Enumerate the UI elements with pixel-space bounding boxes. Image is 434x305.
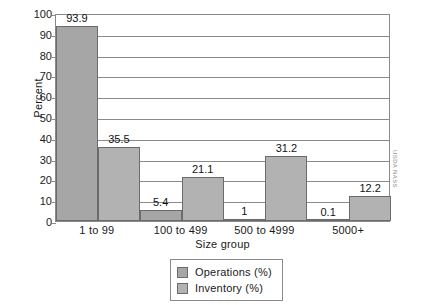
x-axis-tick-label: 5000+ [332, 224, 364, 236]
bar-value-label: 93.9 [66, 12, 87, 24]
bar-value-label: 35.5 [108, 133, 129, 145]
bar-operations [56, 26, 98, 221]
y-axis-tick-label: 90 [6, 29, 52, 41]
bar-value-label: 12.2 [359, 182, 380, 194]
bar-series-container: 93.935.55.421.1131.20.112.2 [56, 15, 389, 221]
bar-value-label: 31.2 [276, 142, 297, 154]
x-axis-tick-label: 100 to 499 [154, 224, 208, 236]
plot-area: 93.935.55.421.1131.20.112.2 [55, 14, 390, 222]
bar-value-label: 1 [241, 205, 247, 217]
bar-group: 5.421.1 [140, 15, 224, 221]
legend-label: Inventory (%) [195, 282, 263, 294]
y-axis-tick-label: 20 [6, 174, 52, 186]
y-axis-tick-labels: 1009080706050403020100 [0, 0, 52, 305]
y-axis-tick-label: 80 [6, 50, 52, 62]
y-axis-tick-label: 10 [6, 195, 52, 207]
bar-operations [140, 210, 182, 221]
bar-inventory [182, 177, 224, 221]
y-axis-tick-label: 0 [6, 216, 52, 228]
bar-operations [223, 219, 265, 221]
chart-figure: Percent 1009080706050403020100 93.935.55… [0, 0, 434, 305]
x-axis-title: Size group [55, 238, 390, 250]
bar-group: 131.2 [223, 15, 307, 221]
bar-value-label: 21.1 [192, 163, 213, 175]
y-axis-tick-label: 30 [6, 154, 52, 166]
source-credit: USDA NASS [392, 150, 398, 188]
bar-operations [307, 219, 349, 221]
x-axis-tick-label: 1 to 99 [79, 224, 114, 236]
bar-group: 93.935.5 [56, 15, 140, 221]
legend-swatch-operations [177, 267, 188, 278]
legend-item: Operations (%) [177, 264, 272, 280]
y-axis-tick-label: 60 [6, 91, 52, 103]
bar-inventory [349, 196, 391, 221]
bar-inventory [265, 156, 307, 221]
y-axis-tick-label: 100 [6, 8, 52, 20]
legend-label: Operations (%) [195, 266, 272, 278]
y-axis-tick-label: 40 [6, 133, 52, 145]
legend-swatch-inventory [177, 283, 188, 294]
y-axis-tick-label: 50 [6, 112, 52, 124]
legend: Operations (%)Inventory (%) [170, 259, 283, 301]
bar-inventory [98, 147, 140, 221]
y-axis-tick-label: 70 [6, 70, 52, 82]
bar-value-label: 0.1 [320, 206, 335, 218]
legend-item: Inventory (%) [177, 280, 272, 296]
x-axis-tick-label: 500 to 4999 [234, 224, 294, 236]
bar-group: 0.112.2 [307, 15, 391, 221]
bar-value-label: 5.4 [153, 196, 168, 208]
